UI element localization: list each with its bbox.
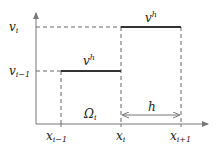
diagram: vi vi−1 vh vh Ωi h xi−1 xi xi+1 — [0, 0, 219, 145]
label-x-i-plus-1: xi+1 — [170, 129, 191, 144]
label-x-i-minus-1: xi−1 — [46, 129, 67, 144]
label-vh-lower: vh — [83, 53, 95, 68]
label-h: h — [148, 100, 156, 114]
label-v-i-minus-1: vi−1 — [9, 64, 30, 79]
label-omega-i: Ωi — [83, 107, 97, 122]
label-x-i: xi — [116, 129, 126, 144]
dashed-guides — [36, 27, 181, 124]
label-vh-upper: vh — [145, 10, 157, 25]
label-v-i: vi — [9, 20, 19, 35]
